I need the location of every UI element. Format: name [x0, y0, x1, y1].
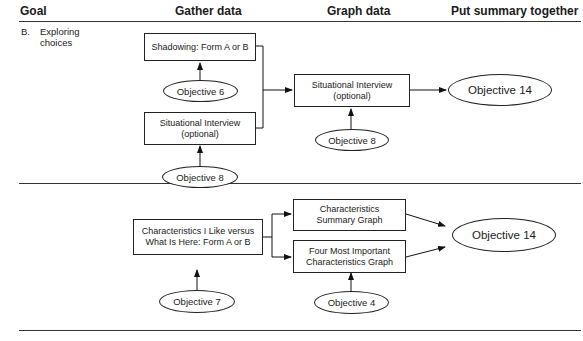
characteristics-like-box: Characteristics I Like versus What Is He… [133, 219, 263, 255]
objective-7-oval: Objective 7 [159, 290, 235, 313]
objective-6-oval: Objective 6 [163, 80, 238, 102]
objective-14-oval-c: Objective 14 [452, 218, 556, 252]
four-most-important-graph-box: Four Most Important Characteristics Grap… [293, 240, 406, 273]
situational-interview-graph-box: Situational Interview (optional) [294, 74, 410, 107]
shadowing-form-box: Shadowing: Form A or B [144, 33, 256, 61]
objective-8-graph-oval: Objective 8 [315, 129, 389, 151]
characteristics-summary-graph-box: Characteristics Summary Graph [293, 199, 406, 231]
objective-4-oval: Objective 4 [314, 291, 389, 314]
objective-14-oval-b: Objective 14 [448, 74, 552, 106]
situational-interview-gather-box: Situational Interview (optional) [144, 112, 256, 145]
connector-arrows [0, 0, 583, 341]
objective-8-gather-oval: Objective 8 [162, 166, 238, 188]
